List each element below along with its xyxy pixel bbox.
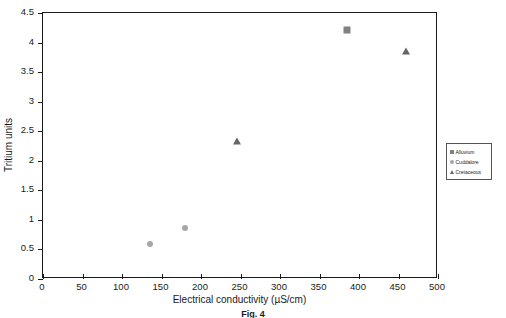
legend-item-cuddalore: Cuddalore [450, 157, 489, 166]
y-tick-label: 3 [29, 96, 34, 106]
x-tick-label: 150 [153, 282, 169, 292]
figure-caption: Fig. 4 [0, 309, 506, 318]
data-point-cuddalore [182, 225, 188, 231]
tritium-vs-conductivity-scatter-chart: Tritium units 00.511.522.533.544.5 05010… [0, 0, 506, 318]
y-tick-label: 3.5 [21, 66, 34, 76]
x-tick-mark [438, 274, 439, 279]
legend-marker-square-icon [450, 150, 454, 154]
data-point-alluvium [344, 26, 351, 33]
data-point-cretaceous [233, 138, 241, 145]
legend-item-label: Cretaceous [456, 169, 482, 175]
legend-item-label: Alluvium [456, 149, 475, 155]
x-tick-label: 300 [271, 282, 287, 292]
legend-item-label: Cuddalore [456, 159, 479, 165]
legend-marker-triangle-icon [450, 170, 454, 174]
data-point-cretaceous [402, 48, 410, 55]
y-axis-tick-labels: 00.511.522.533.544.5 [0, 12, 34, 278]
data-point-layer [43, 13, 436, 277]
legend-item-alluvium: Alluvium [450, 147, 489, 156]
x-tick-label: 350 [311, 282, 327, 292]
x-tick-label: 450 [390, 282, 406, 292]
x-tick-label: 250 [232, 282, 248, 292]
x-tick-label: 200 [192, 282, 208, 292]
y-tick-label: 0.5 [21, 243, 34, 253]
plot-area [42, 12, 437, 278]
y-tick-label: 2.5 [21, 125, 34, 135]
x-tick-label: 400 [350, 282, 366, 292]
data-point-cuddalore [147, 241, 153, 247]
y-tick-label: 1 [29, 214, 34, 224]
x-axis-tick-labels: 050100150200250300350400450500 [42, 282, 437, 294]
x-tick-label: 50 [76, 282, 87, 292]
legend-marker-circle-icon [450, 160, 454, 164]
y-tick-label: 4.5 [21, 7, 34, 17]
x-axis-title: Electrical conductivity (µS/cm) [42, 294, 437, 306]
legend-item-cretaceous: Cretaceous [450, 167, 489, 176]
y-tick-mark [38, 279, 43, 280]
x-tick-label: 0 [39, 282, 44, 292]
x-tick-label: 500 [429, 282, 445, 292]
y-tick-label: 1.5 [21, 184, 34, 194]
y-tick-label: 2 [29, 155, 34, 165]
chart-legend: AlluviumCuddaloreCretaceous [446, 143, 492, 180]
y-tick-label: 0 [29, 273, 34, 283]
y-tick-label: 4 [29, 37, 34, 47]
x-tick-label: 100 [113, 282, 129, 292]
